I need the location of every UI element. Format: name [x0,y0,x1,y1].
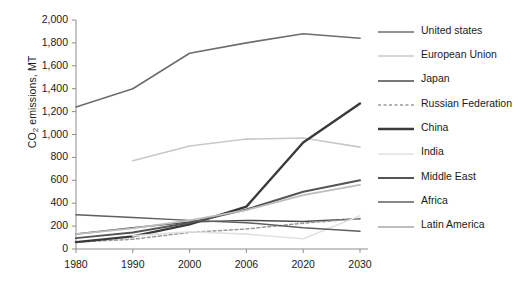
series-line [133,138,360,161]
legend-item[interactable]: Africa [378,188,512,212]
legend-line-swatch [378,219,414,231]
legend-item[interactable]: United states [378,18,512,42]
legend-label: Latin America [421,219,485,230]
legend-line-swatch [378,97,414,109]
legend-item[interactable]: China [378,115,512,139]
legend-line-swatch [378,121,414,133]
legend-label: Africa [421,195,448,206]
co2-emissions-line-chart: CO2 emissions, MT 02004006008001,0001,20… [0,0,520,281]
legend-label: India [421,146,444,157]
legend-item[interactable]: Middle East [378,164,512,188]
legend: United statesEuropean UnionJapanRussian … [378,18,512,237]
series-lines [76,34,360,242]
series-line [76,34,360,107]
legend-line-swatch [378,170,414,182]
series-line [76,185,360,234]
legend-label: United states [421,25,482,36]
legend-label: Japan [421,73,450,84]
legend-label: Russian Federation [421,98,512,109]
legend-line-swatch [378,146,414,158]
legend-label: European Union [421,49,497,60]
legend-line-swatch [378,194,414,206]
axis-lines [72,20,368,253]
legend-line-swatch [378,73,414,85]
legend-label: China [421,122,448,133]
legend-item[interactable]: India [378,139,512,163]
legend-item[interactable]: European Union [378,42,512,66]
legend-label: Middle East [421,171,476,182]
legend-item[interactable]: Russian Federation [378,91,512,115]
legend-item[interactable]: Latin America [378,212,512,236]
legend-item[interactable]: Japan [378,67,512,91]
legend-line-swatch [378,24,414,36]
legend-line-swatch [378,48,414,60]
